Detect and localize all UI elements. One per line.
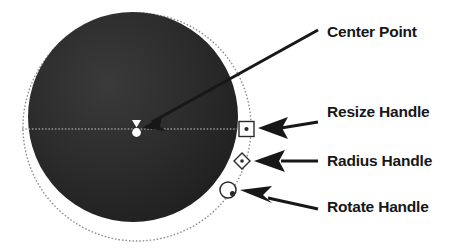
label-radius-handle: Radius Handle (327, 153, 432, 169)
callout-rotate-handle (240, 186, 318, 209)
label-center-point: Center Point (327, 24, 417, 40)
callout-radius-handle (254, 150, 318, 172)
label-resize-handle: Resize Handle (327, 104, 430, 120)
circle-handles-diagram: Center Point Resize Handle Radius Handle… (0, 0, 464, 250)
label-rotate-handle: Rotate Handle (327, 199, 429, 215)
callout-resize-handle (258, 117, 318, 139)
callout-center-point (142, 30, 318, 131)
